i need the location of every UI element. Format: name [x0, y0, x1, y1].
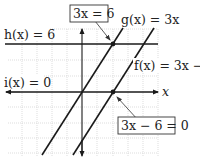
x-axis-label: x: [162, 84, 169, 99]
label-g: g(x) = 3x: [121, 12, 179, 27]
label-h: h(x) = 6: [4, 27, 55, 42]
label-f: f(x) = 3x − 6: [134, 58, 200, 73]
intersection-dot-f-i: [111, 90, 116, 95]
callout-top-label: 3x = 6: [73, 6, 114, 21]
function-graph-diagram: 3x = 6 3x − 6 = 0 h(x) = 6 i(x) = 0 g(x)…: [0, 0, 200, 160]
label-i: i(x) = 0: [4, 75, 51, 90]
intersection-dot-g-h: [111, 42, 116, 47]
callout-bottom-label: 3x − 6 = 0: [121, 118, 189, 133]
